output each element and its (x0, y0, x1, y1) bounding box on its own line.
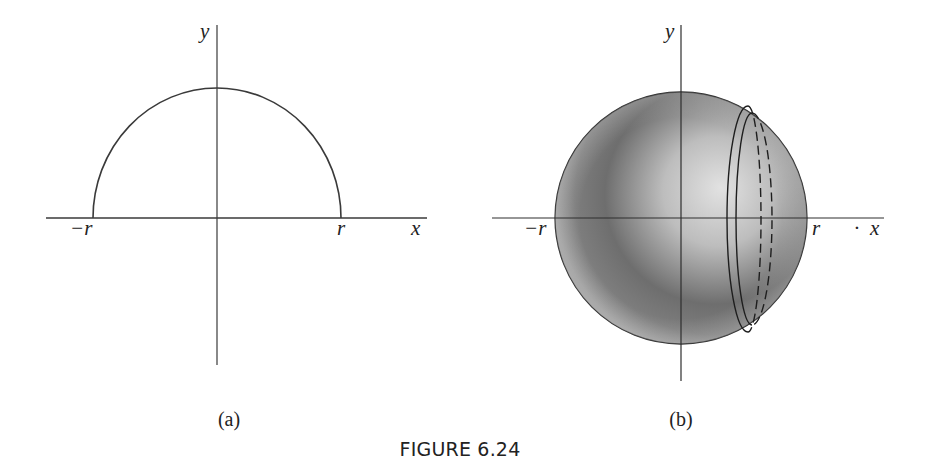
y-axis-label: y (198, 19, 210, 43)
stray-dot-mark: · (854, 216, 859, 240)
x-axis-label: x (869, 216, 880, 240)
y-axis-label: y (663, 19, 675, 43)
tick-label-pos-r: r (337, 216, 346, 240)
panel-b: y −r r · x (b) (492, 19, 884, 431)
panel-a: y −r r x (a) (46, 19, 427, 431)
tick-label-neg-r: −r (524, 216, 547, 240)
panel-b-label: (b) (669, 408, 692, 431)
x-axis-label: x (410, 216, 421, 240)
tick-label-neg-r: −r (70, 216, 93, 240)
figure-6-24: y −r r x (a) y −r r · x (b) FIGURE 6.24 (0, 0, 928, 470)
tick-label-pos-r: r (812, 216, 821, 240)
figure-caption: FIGURE 6.24 (400, 438, 521, 460)
panel-a-label: (a) (218, 408, 240, 431)
